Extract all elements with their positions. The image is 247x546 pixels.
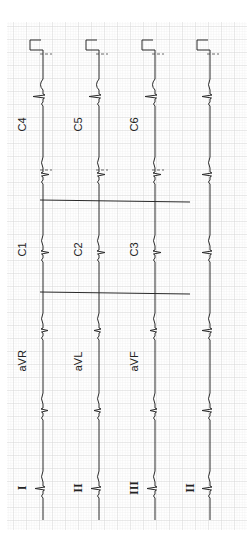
lead-label-c4: C4 bbox=[17, 115, 28, 135]
lead-label-avr: aVR bbox=[17, 352, 28, 372]
lead-label-c3: C3 bbox=[129, 240, 140, 260]
lead-label-avf: aVF bbox=[129, 352, 140, 372]
lead-label-ii: II bbox=[184, 478, 196, 498]
ecg-strip bbox=[0, 0, 247, 546]
lead-label-c5: C5 bbox=[73, 115, 84, 135]
lead-label-c2: C2 bbox=[73, 240, 84, 260]
lead-label-i: I bbox=[16, 478, 28, 498]
lead-label-c1: C1 bbox=[17, 240, 28, 260]
lead-label-avl: aVL bbox=[73, 352, 84, 372]
lead-label-ii: II bbox=[72, 478, 84, 498]
lead-label-c6: C6 bbox=[129, 115, 140, 135]
lead-label-iii: III bbox=[128, 478, 140, 498]
